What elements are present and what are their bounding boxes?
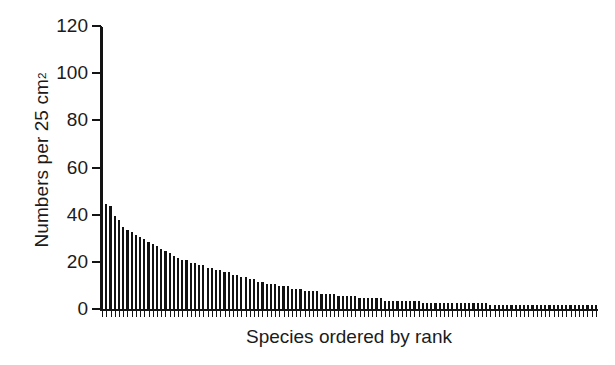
x-axis-tick bbox=[549, 311, 550, 317]
x-axis-tick bbox=[153, 311, 154, 317]
bar bbox=[337, 296, 339, 310]
x-axis-tick bbox=[123, 311, 124, 317]
x-axis-tick bbox=[444, 311, 445, 317]
x-axis-tick bbox=[554, 311, 555, 317]
x-axis-tick bbox=[305, 311, 306, 317]
bar bbox=[523, 305, 525, 310]
x-axis-tick bbox=[292, 311, 293, 317]
x-axis-tick bbox=[592, 311, 593, 317]
bar bbox=[388, 301, 390, 310]
x-axis-tick bbox=[368, 311, 369, 317]
bar bbox=[477, 303, 479, 310]
bar bbox=[472, 303, 474, 310]
bar bbox=[316, 291, 318, 310]
bar bbox=[548, 305, 550, 310]
x-axis-tick bbox=[364, 311, 365, 317]
x-axis-tick bbox=[187, 311, 188, 317]
x-axis-tick bbox=[220, 311, 221, 317]
x-axis-tick bbox=[398, 311, 399, 317]
x-axis-tick bbox=[376, 311, 377, 317]
bar bbox=[109, 206, 111, 310]
x-axis-tick bbox=[237, 311, 238, 317]
bar bbox=[304, 291, 306, 310]
bar bbox=[434, 303, 436, 310]
bar bbox=[274, 284, 276, 310]
x-axis-tick bbox=[558, 311, 559, 317]
bar bbox=[164, 251, 166, 310]
x-axis-tick bbox=[596, 311, 597, 317]
y-axis-tick-label: 0 bbox=[77, 299, 88, 318]
bar bbox=[126, 230, 128, 310]
bar bbox=[215, 270, 217, 310]
x-axis-tick bbox=[524, 311, 525, 317]
bar bbox=[270, 284, 272, 310]
x-axis-tick bbox=[533, 311, 534, 317]
bar bbox=[569, 305, 571, 310]
bar bbox=[147, 242, 149, 310]
bar bbox=[261, 282, 263, 310]
x-axis-tick bbox=[486, 311, 487, 317]
bar bbox=[114, 216, 116, 310]
bar bbox=[422, 303, 424, 310]
bar bbox=[430, 303, 432, 310]
bar bbox=[236, 275, 238, 310]
x-axis-tick bbox=[241, 311, 242, 317]
bar bbox=[591, 305, 593, 310]
bar bbox=[299, 289, 301, 310]
bar bbox=[346, 296, 348, 310]
x-axis-tick bbox=[516, 311, 517, 317]
x-axis-tick bbox=[149, 311, 150, 317]
bar bbox=[396, 301, 398, 310]
bar bbox=[544, 305, 546, 310]
x-axis-tick bbox=[587, 311, 588, 317]
x-axis-tick bbox=[170, 311, 171, 317]
x-axis-tick bbox=[254, 311, 255, 317]
rank-abundance-chart: Numbers per 25 cm2 020406080100120 Speci… bbox=[0, 0, 615, 365]
x-axis-tick bbox=[419, 311, 420, 317]
bar bbox=[456, 303, 458, 310]
bar bbox=[329, 294, 331, 311]
x-axis-tick bbox=[448, 311, 449, 317]
plot-area bbox=[100, 26, 598, 310]
x-axis-tick bbox=[182, 311, 183, 317]
x-axis-tick bbox=[317, 311, 318, 317]
bar bbox=[190, 263, 192, 310]
bar bbox=[320, 294, 322, 311]
bar bbox=[582, 305, 584, 310]
bar bbox=[211, 268, 213, 310]
x-axis-tick bbox=[136, 311, 137, 317]
x-axis-tick bbox=[389, 311, 390, 317]
bar bbox=[228, 272, 230, 310]
x-axis-tick bbox=[208, 311, 209, 317]
x-axis-tick bbox=[469, 311, 470, 317]
bar bbox=[371, 298, 373, 310]
x-axis-tick bbox=[330, 311, 331, 317]
bar bbox=[257, 282, 259, 310]
bar bbox=[287, 286, 289, 310]
bar bbox=[561, 305, 563, 310]
x-axis-tick bbox=[465, 311, 466, 317]
x-axis-tick bbox=[258, 311, 259, 317]
x-axis-tick bbox=[503, 311, 504, 317]
x-axis-tick bbox=[482, 311, 483, 317]
y-axis-tick-label: 120 bbox=[56, 16, 88, 35]
bar bbox=[156, 246, 158, 310]
bar bbox=[207, 268, 209, 310]
x-axis-label: Species ordered by rank bbox=[101, 326, 597, 348]
bar bbox=[194, 263, 196, 310]
x-axis-tick bbox=[511, 311, 512, 317]
x-axis-tick bbox=[246, 311, 247, 317]
x-axis-tick bbox=[195, 311, 196, 317]
bar bbox=[160, 249, 162, 310]
bar bbox=[401, 301, 403, 310]
bar bbox=[460, 303, 462, 310]
x-axis-tick bbox=[474, 311, 475, 317]
bar bbox=[489, 305, 491, 310]
x-axis-tick bbox=[313, 311, 314, 317]
bar bbox=[586, 305, 588, 310]
bar bbox=[354, 296, 356, 310]
x-axis-tick bbox=[410, 311, 411, 317]
bar bbox=[447, 303, 449, 310]
x-axis-tick bbox=[478, 311, 479, 317]
x-axis-tick bbox=[343, 311, 344, 317]
